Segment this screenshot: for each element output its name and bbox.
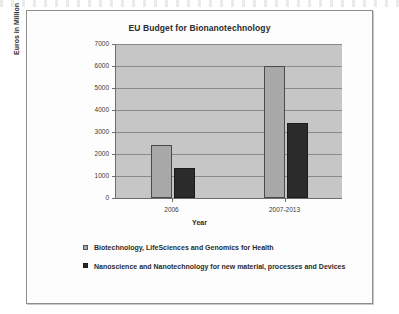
legend-item: Nanoscience and Nanotechnology for new m…: [83, 262, 363, 272]
gridline: [116, 132, 342, 133]
gridline: [116, 44, 342, 45]
y-axis-tick-label: 0: [79, 194, 109, 201]
bar: [287, 123, 308, 198]
x-axis-tick-label: 2006: [137, 206, 207, 213]
chart-frame: EU Budget for Bionanotechnology Euros in…: [26, 10, 373, 304]
bar: [174, 168, 195, 198]
x-axis-tick-mark: [172, 198, 173, 202]
y-axis-tick-label: 5000: [79, 84, 109, 91]
y-axis-tick-label: 3000: [79, 128, 109, 135]
bar: [151, 145, 172, 198]
y-axis-tick-label: 7000: [79, 40, 109, 47]
x-axis-line: [115, 198, 342, 199]
chart-title: EU Budget for Bionanotechnology: [27, 23, 372, 33]
gridline: [116, 110, 342, 111]
scan-artifact-band: [0, 0, 399, 7]
x-axis-tick-label: 2007-2013: [250, 206, 320, 213]
legend-item: Biotechnology, LifeSciences and Genomics…: [83, 243, 363, 253]
y-axis-tick-label: 2000: [79, 150, 109, 157]
chart-legend: Biotechnology, LifeSciences and Genomics…: [83, 243, 363, 280]
legend-swatch-icon: [83, 263, 88, 268]
x-axis-title: Year: [27, 219, 372, 226]
y-axis-title: Euros in Million: [13, 3, 20, 55]
y-axis-tick-label: 6000: [79, 62, 109, 69]
plot-area: [115, 44, 342, 198]
y-axis-tick-label: 4000: [79, 106, 109, 113]
gridline: [116, 88, 342, 89]
legend-item-label: Biotechnology, LifeSciences and Genomics…: [94, 243, 274, 253]
gridline: [116, 66, 342, 67]
bar: [264, 66, 285, 198]
legend-swatch-icon: [83, 245, 88, 250]
x-axis-tick-mark: [285, 198, 286, 202]
y-axis-tick-label: 1000: [79, 172, 109, 179]
legend-item-label: Nanoscience and Nanotechnology for new m…: [94, 262, 345, 272]
